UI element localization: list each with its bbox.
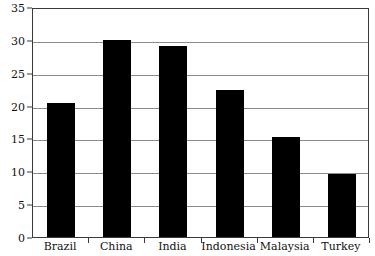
bar — [216, 90, 244, 237]
y-tick-label: 20 — [11, 101, 25, 112]
x-tick-label: China — [100, 240, 133, 253]
y-tick-label: 35 — [11, 3, 25, 14]
x-tick-label: Brazil — [44, 240, 77, 253]
y-tick-label: 5 — [18, 200, 25, 211]
x-axis: BrazilChinaIndiaIndonesiaMalaysiaTurkey — [32, 240, 369, 256]
y-tick-label: 25 — [11, 68, 25, 79]
plot-area — [32, 8, 369, 238]
bar — [272, 137, 300, 237]
y-axis: 05101520253035 — [0, 0, 32, 250]
bar — [159, 46, 187, 237]
x-tick-mark — [369, 238, 370, 243]
bar — [328, 174, 356, 237]
x-tick-label: Malaysia — [260, 240, 310, 253]
bar — [103, 40, 131, 237]
bar — [47, 103, 75, 237]
x-tick-label: India — [158, 240, 187, 253]
x-tick-label: Turkey — [321, 240, 360, 253]
x-tick-label: Indonesia — [201, 240, 255, 253]
y-tick-label: 0 — [18, 233, 25, 244]
y-tick-label: 15 — [11, 134, 25, 145]
y-tick-label: 30 — [11, 35, 25, 46]
bars-layer — [33, 9, 368, 237]
y-tick-label: 10 — [11, 167, 25, 178]
